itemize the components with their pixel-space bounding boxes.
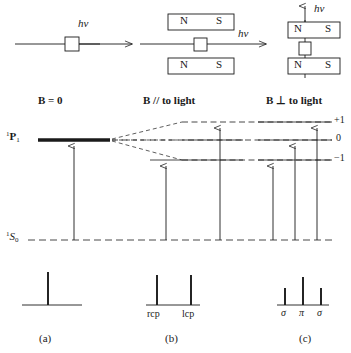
- magnet-bar-bottom-b: [168, 58, 234, 74]
- sample-square-c: [299, 42, 311, 55]
- panel-caption-c: (c): [299, 333, 311, 344]
- sublevel-label-plus1: +1: [334, 115, 345, 125]
- magnet-pole-south-c-bottom: S: [325, 59, 331, 70]
- apparatus-panel-b: [140, 14, 266, 74]
- magnet-pole-south-b-bottom: S: [216, 59, 222, 70]
- panel-caption-a: (a): [39, 333, 51, 344]
- sample-square-b: [194, 38, 207, 51]
- sample-square-a: [65, 37, 79, 51]
- ground-state-subscript: 0: [15, 236, 19, 244]
- sublevel-rails: [112, 122, 332, 160]
- magnet-pole-south-b-top: S: [216, 15, 222, 26]
- sublevel-label-zero: 0: [336, 133, 341, 143]
- figure-canvas: hv hv hv N S N S N S N S B = 0 B // to l…: [0, 0, 351, 353]
- field-condition-b: B // to light: [143, 95, 195, 106]
- spectrum-c: [277, 277, 329, 305]
- spectrum-a: [22, 272, 82, 305]
- spectrum-label-sigma-left: σ: [281, 308, 286, 318]
- spectrum-label-pi: π: [299, 308, 304, 318]
- correlation-lines: [112, 122, 182, 160]
- apparatus-panel-a: [15, 37, 132, 51]
- excited-state-subscript: 1: [16, 136, 20, 144]
- field-condition-c: B ⊥ to light: [266, 95, 322, 106]
- photon-label-c: hv: [314, 3, 324, 14]
- ground-state-label: 1S0: [6, 231, 19, 244]
- spectrum-label-rcp: rcp: [147, 309, 160, 319]
- magnet-pole-north-b-bottom: N: [180, 59, 188, 70]
- panel-caption-b: (b): [165, 333, 178, 344]
- excited-state-label: 1P1: [6, 131, 20, 144]
- diagram-svg: [0, 0, 351, 353]
- magnet-pole-south-c-top: S: [325, 23, 331, 34]
- magnet-pole-north-c-top: N: [294, 23, 302, 34]
- photon-label-b: hv: [238, 28, 248, 39]
- spectrum-label-lcp: lcp: [182, 309, 194, 319]
- magnet-pole-north-b-top: N: [180, 15, 188, 26]
- transition-arrows-c: [273, 128, 317, 240]
- photon-label-a: hv: [78, 18, 88, 29]
- magnet-bar-top-b: [168, 14, 234, 30]
- magnet-pole-north-c-bottom: N: [294, 59, 302, 70]
- field-condition-a: B = 0: [38, 95, 63, 106]
- spectrum-b: [146, 275, 200, 305]
- spectrum-label-sigma-right: σ: [317, 308, 322, 318]
- sublevel-label-minus1: −1: [334, 153, 345, 163]
- transition-arrows-b: [166, 128, 220, 240]
